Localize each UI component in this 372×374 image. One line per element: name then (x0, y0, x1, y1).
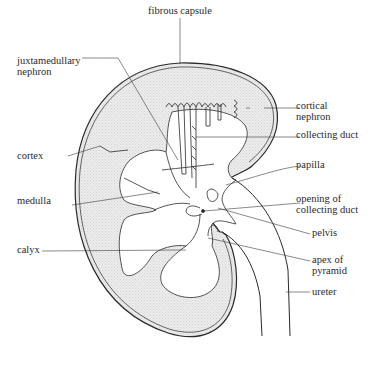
label-juxtamedullary-nephron-line1: juxtamedullary (17, 55, 81, 66)
label-papilla: papilla (296, 159, 325, 170)
label-juxtamedullary-nephron-line2: nephron (17, 66, 51, 77)
label-opening-line1: opening of (296, 193, 341, 204)
kidney-diagram: fibrous capsule juxtamedullary nephron c… (0, 0, 372, 374)
label-pelvis: pelvis (312, 227, 337, 238)
label-calyx: calyx (17, 244, 40, 255)
label-cortical-nephron-line2: nephron (296, 111, 330, 122)
label-cortex: cortex (17, 150, 43, 161)
label-apex-line1: apex of (312, 254, 343, 265)
label-ureter: ureter (312, 286, 336, 297)
label-medulla: medulla (17, 195, 51, 206)
label-opening-line2: collecting duct (296, 204, 358, 215)
label-apex-line2: pyramid (312, 265, 347, 276)
label-fibrous-capsule: fibrous capsule (148, 5, 212, 16)
label-cortical-nephron-line1: cortical (296, 100, 327, 111)
label-collecting-duct: collecting duct (296, 129, 358, 140)
